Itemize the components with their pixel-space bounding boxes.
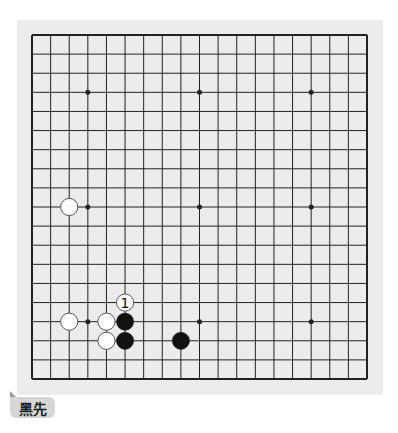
black-stone[interactable] bbox=[116, 313, 133, 330]
star-point bbox=[309, 319, 314, 324]
star-point bbox=[197, 90, 202, 95]
star-point bbox=[309, 90, 314, 95]
star-point bbox=[197, 205, 202, 210]
star-point bbox=[85, 205, 90, 210]
white-stone[interactable] bbox=[98, 313, 115, 330]
black-stone[interactable] bbox=[116, 332, 133, 349]
white-stone[interactable] bbox=[98, 332, 115, 349]
move-number: 1 bbox=[121, 295, 130, 311]
go-board-grid[interactable]: 1 bbox=[0, 0, 398, 433]
white-stone[interactable] bbox=[61, 313, 78, 330]
black-stone[interactable] bbox=[172, 332, 189, 349]
white-stone[interactable] bbox=[61, 198, 78, 215]
to-play-label: 黑先 bbox=[10, 397, 55, 418]
star-point bbox=[197, 319, 202, 324]
star-point bbox=[85, 90, 90, 95]
star-point bbox=[85, 319, 90, 324]
star-point bbox=[309, 205, 314, 210]
